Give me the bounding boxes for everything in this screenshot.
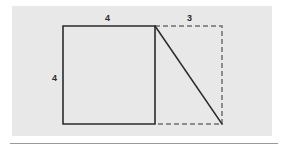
dimension-label-top-left: 4	[105, 13, 110, 23]
bottom-divider	[10, 143, 278, 144]
square-outline	[63, 26, 155, 124]
dimension-label-top-right: 3	[187, 13, 192, 23]
diagonal-line	[155, 26, 222, 124]
geometry-figure	[0, 0, 284, 148]
dimension-label-left-side: 4	[52, 73, 57, 83]
screenshot-root: 4 3 4	[0, 0, 284, 148]
